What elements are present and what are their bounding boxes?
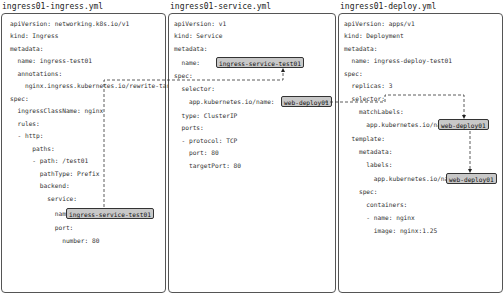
code-line: - path: /test01 xyxy=(10,157,88,165)
code-line: selector: xyxy=(344,95,385,103)
code-line: spec: xyxy=(344,188,378,196)
code-line: - name: nginx xyxy=(344,214,415,222)
code-line: name: xyxy=(10,210,73,218)
code-line: name: ingress-deploy-test01 xyxy=(344,57,452,65)
code-line: selector: xyxy=(174,85,215,93)
code-line: - protocol: TCP xyxy=(174,137,237,145)
code-line: nginx.ingress.kubernetes.io/rewrite-targ… xyxy=(10,82,193,90)
code-line: ports: xyxy=(174,124,204,132)
code-line: paths: xyxy=(10,145,55,153)
code-line: matchLabels: xyxy=(344,108,404,116)
code-line: spec: xyxy=(174,72,193,80)
code-line: number: 80 xyxy=(10,237,99,245)
code-line: labels: xyxy=(344,161,392,169)
code-line: ingressClassName: nginx xyxy=(10,107,103,115)
template-labels-highlight: web-deploy01 xyxy=(446,173,497,184)
code-line: app.kubernetes.io/name: xyxy=(344,175,459,183)
code-line: metadata: xyxy=(344,45,378,53)
service-selector-highlight: web-deploy01 xyxy=(281,96,332,107)
code-line: backend: xyxy=(10,182,70,190)
code-line: apiVersion: networking.k8s.io/v1 xyxy=(10,20,129,28)
ingress-yaml-panel xyxy=(1,13,166,293)
backend-service-name-highlight: ingress-service-test01 xyxy=(66,208,154,219)
code-line: annotations: xyxy=(10,70,62,78)
code-line: kind: Service xyxy=(174,32,222,40)
code-line: app.kubernetes.io/name: xyxy=(344,121,452,129)
code-line: spec: xyxy=(10,95,29,103)
code-line: containers: xyxy=(344,201,407,209)
code-line: app.kubernetes.io/name: xyxy=(174,98,275,106)
code-line: kind: Deployment xyxy=(344,32,404,40)
code-line: - http: xyxy=(10,132,44,140)
code-line: type: ClusterIP xyxy=(174,112,237,120)
file-title-service: ingress01-service.yml xyxy=(170,2,271,11)
code-line: port: 80 xyxy=(174,149,219,157)
code-line: targetPort: 80 xyxy=(174,162,241,170)
code-line: template: xyxy=(344,135,385,143)
code-line: kind: Ingress xyxy=(10,32,58,40)
match-labels-highlight: web-deploy01 xyxy=(438,119,489,130)
code-line: metadata: xyxy=(10,45,44,53)
file-title-deploy: ingress01-deploy.yml xyxy=(340,2,436,11)
file-title-ingress: ingress01-ingress.yml xyxy=(2,2,103,11)
code-line: apiVersion: v1 xyxy=(174,20,226,28)
service-name-highlight: ingress-service-test01 xyxy=(216,57,304,68)
code-line: metadata: xyxy=(344,148,392,156)
code-line: replicas: 3 xyxy=(344,82,392,90)
code-line: image: nginx:1.25 xyxy=(344,227,437,235)
code-line: metadata: xyxy=(174,45,208,53)
code-line: name: ingress-test01 xyxy=(10,57,92,65)
code-line: port: xyxy=(10,224,73,232)
code-line: apiVersion: apps/v1 xyxy=(344,20,415,28)
code-line: spec: xyxy=(344,70,363,78)
code-line: rules: xyxy=(10,120,40,128)
code-line: name: xyxy=(174,59,200,67)
code-line: service: xyxy=(10,195,77,203)
code-line: pathType: Prefix xyxy=(10,170,99,178)
